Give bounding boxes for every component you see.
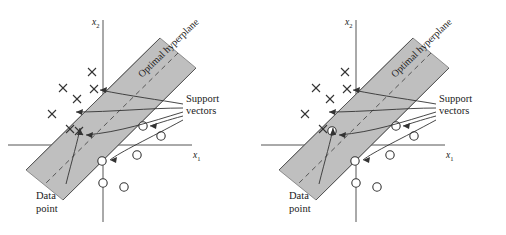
marker-cross	[301, 110, 309, 118]
marker-cross	[73, 95, 81, 103]
data-point-label-line1: Data	[289, 190, 309, 201]
marker-cross-support	[343, 85, 351, 93]
panel-right: x1 x2 Optimal hyperplane Support vectors…	[253, 0, 506, 235]
support-vectors-label-line1: Support	[439, 93, 472, 104]
panel-left: x1 x2 Optimal hyperplane Support vectors…	[0, 0, 253, 235]
data-point-label-line2: point	[289, 203, 311, 214]
marker-circle	[133, 151, 141, 159]
data-point-label-line1: Data	[36, 190, 56, 201]
marker-circle	[386, 151, 394, 159]
marker-cross	[59, 84, 67, 92]
marker-circle	[99, 179, 107, 187]
x-axis-label: x1	[192, 150, 200, 162]
marker-circle-support	[98, 157, 106, 165]
x-axis-label: x1	[445, 150, 453, 162]
support-vectors-label-line2: vectors	[439, 105, 469, 116]
marker-cross	[88, 68, 96, 76]
y-axis-label: x2	[344, 17, 352, 29]
marker-circle	[373, 183, 381, 191]
marker-cross-support	[90, 85, 98, 93]
marker-cross	[48, 110, 56, 118]
support-vectors-label-line1: Support	[186, 93, 219, 104]
marker-cross	[341, 68, 349, 76]
data-point-label-line2: point	[36, 203, 58, 214]
svm-margin-figure: x1 x2 Optimal hyperplane Support vectors…	[0, 0, 506, 235]
marker-circle-support	[351, 157, 359, 165]
marker-cross	[326, 95, 334, 103]
marker-cross	[312, 84, 320, 92]
support-vectors-label-line2: vectors	[186, 105, 216, 116]
y-axis-label: x2	[91, 17, 99, 29]
marker-circle	[352, 179, 360, 187]
marker-circle	[120, 183, 128, 191]
